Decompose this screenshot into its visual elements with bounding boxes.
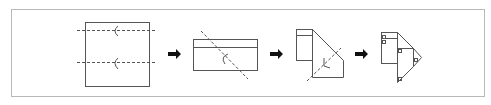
step-1 (77, 23, 157, 87)
square-sheet (86, 23, 150, 87)
step-3 (297, 30, 344, 82)
pentagon-body (313, 30, 344, 78)
arrow-right-icon (270, 49, 283, 59)
folded-flap (297, 30, 313, 61)
marker-square (399, 78, 402, 81)
top-triangle (398, 33, 414, 49)
fold-mark-icon (223, 54, 228, 64)
arrow-right-icon (168, 49, 181, 59)
marker-square (399, 50, 402, 53)
marker-square (415, 59, 418, 62)
folding-diagram (0, 0, 491, 105)
step-4 (382, 33, 422, 83)
marker-square (383, 41, 386, 44)
step-2 (194, 31, 258, 79)
dashed-fold-line-diagonal (201, 31, 248, 79)
fold-mark-icon (115, 58, 118, 69)
arrow-right-icon (355, 49, 368, 59)
marker-square (383, 36, 386, 39)
final-flap (382, 33, 398, 64)
